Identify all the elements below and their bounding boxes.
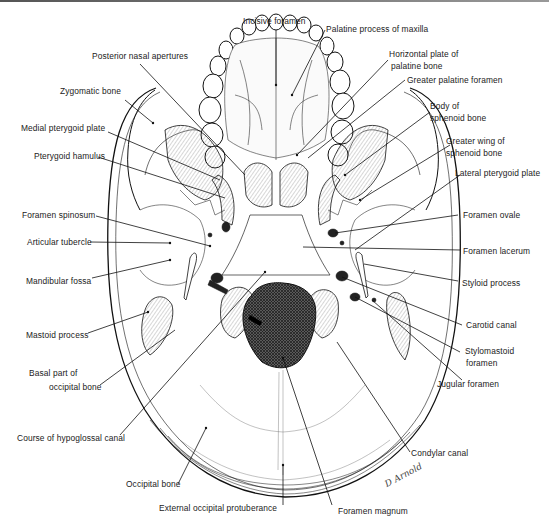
label-carotid-canal: Carotid canal	[466, 320, 517, 330]
label-foramen-lacerum: Foramen lacerum	[463, 246, 530, 256]
label-condylar-canal: Condylar canal	[411, 448, 468, 458]
label-body-of-sphenoid-line1: Body of	[430, 101, 459, 111]
label-external-occipital-protuberance: External occipital protuberance	[159, 503, 277, 513]
label-basal-part-line2: occipital bone	[49, 382, 102, 392]
label-stylomastoid-line2: foramen	[466, 358, 497, 368]
label-body-of-sphenoid-line2: sphenoid bone	[430, 113, 486, 123]
label-incisive-foramen: Incisive foramen	[243, 16, 306, 26]
occipital-ridges	[180, 370, 390, 480]
label-lateral-pterygoid-plate: Lateral pterygoid plate	[455, 168, 540, 178]
label-posterior-nasal-apertures: Posterior nasal apertures	[92, 51, 188, 61]
label-styloid-process: Styloid process	[462, 278, 520, 288]
label-foramen-magnum: Foramen magnum	[338, 506, 408, 516]
label-stylomastoid-line1: Stylomastoid	[465, 346, 514, 356]
label-basal-part-line1: Basal part of	[29, 368, 77, 378]
label-greater-wing-line2: sphenoid bone	[446, 148, 502, 158]
label-horizontal-plate-line2: palatine bone	[391, 61, 443, 71]
label-palatine-process-of-maxilla: Palatine process of maxilla	[326, 24, 428, 34]
label-jugular-foramen: Jugular foramen	[437, 379, 499, 389]
foramen-magnum	[243, 283, 316, 368]
label-greater-wing-line1: Greater wing of	[446, 136, 505, 146]
posterior-nasal-apertures	[244, 163, 308, 207]
label-mastoid-process: Mastoid process	[26, 330, 88, 340]
label-pterygoid-hamulus: Pterygoid hamulus	[34, 151, 105, 161]
label-medial-pterygoid-plate: Medial pterygoid plate	[21, 123, 105, 133]
label-zygomatic-bone: Zygomatic bone	[60, 86, 121, 96]
label-occipital-bone: Occipital bone	[126, 479, 180, 489]
label-horizontal-plate-line1: Horizontal plate of	[389, 49, 458, 59]
label-mandibular-fossa: Mandibular fossa	[26, 276, 91, 286]
label-foramen-ovale: Foramen ovale	[463, 210, 520, 220]
label-course-of-hypoglossal-canal: Course of hypoglossal canal	[17, 433, 125, 443]
label-articular-tubercle: Articular tubercle	[27, 237, 92, 247]
label-greater-palatine-foramen: Greater palatine foramen	[407, 75, 503, 85]
basiocciput	[222, 215, 330, 275]
label-foramen-spinosum: Foramen spinosum	[22, 210, 95, 220]
hard-palate	[225, 38, 329, 160]
